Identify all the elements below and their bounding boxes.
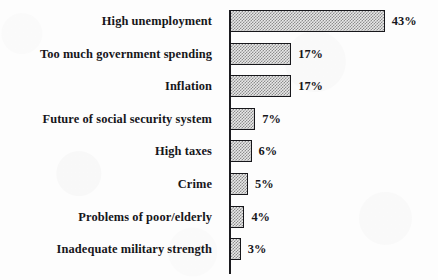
bar-row: High taxes 6% [0, 140, 438, 162]
bar-value-label: 4% [251, 209, 270, 224]
category-label-cell: Problems of poor/elderly [0, 206, 212, 228]
category-label-cell: High unemployment [0, 10, 212, 32]
bar-row: Crime 5% [0, 173, 438, 195]
bar-high-unemployment [230, 10, 385, 32]
category-label: Future of social security system [42, 111, 212, 126]
bar-value-label: 17% [298, 79, 323, 94]
bar-value-label: 7% [262, 111, 281, 126]
category-label: Crime [178, 177, 212, 192]
bar-high-taxes [230, 140, 252, 162]
category-label: High taxes [155, 144, 212, 159]
category-label-cell: High taxes [0, 140, 212, 162]
bar-value-label: 17% [298, 46, 323, 61]
bar-problems-of-poor-elderly [230, 206, 244, 228]
bar-value-label: 3% [248, 242, 267, 257]
bar-inadequate-military-strength [230, 238, 241, 260]
category-label: Inflation [165, 79, 212, 94]
category-label: Inadequate military strength [57, 242, 212, 257]
bar-value-label: 5% [255, 177, 274, 192]
bar-crime [230, 173, 248, 195]
category-label-cell: Inflation [0, 75, 212, 97]
bar-value-label: 43% [392, 14, 417, 29]
bar-future-of-social-security-system [230, 108, 255, 130]
category-label: Problems of poor/elderly [78, 209, 212, 224]
bar-chart: High unemployment 43% Too much governmen… [0, 0, 438, 280]
bar-too-much-government-spending [230, 43, 291, 65]
bar-row: High unemployment 43% [0, 10, 438, 32]
category-label: Too much government spending [40, 46, 212, 61]
category-label: High unemployment [102, 14, 212, 29]
bar-row: Inflation 17% [0, 75, 438, 97]
bar-row: Future of social security system 7% [0, 108, 438, 130]
bar-value-label: 6% [259, 144, 278, 159]
bar-row: Inadequate military strength 3% [0, 238, 438, 260]
category-label-cell: Too much government spending [0, 43, 212, 65]
category-label-cell: Future of social security system [0, 108, 212, 130]
bar-row: Too much government spending 17% [0, 43, 438, 65]
bar-inflation [230, 75, 291, 97]
bar-row: Problems of poor/elderly 4% [0, 206, 438, 228]
category-label-cell: Crime [0, 173, 212, 195]
category-label-cell: Inadequate military strength [0, 238, 212, 260]
